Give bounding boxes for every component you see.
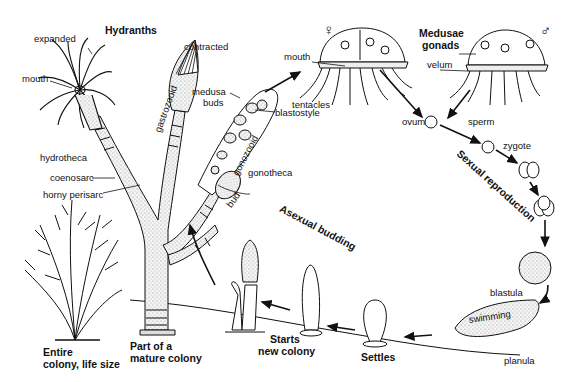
- label-hydranths: Hydranths: [105, 25, 157, 36]
- label-entire-colony-line2: colony, life size: [43, 359, 120, 370]
- label-part-of-colony-line1: Part of a: [130, 341, 172, 352]
- female-medusa-illustration: [300, 28, 412, 105]
- label-ovum: ovum: [402, 116, 425, 127]
- label-medusae: Medusae: [419, 28, 464, 39]
- label-entire-colony-line1: Entire: [43, 347, 73, 358]
- label-sperm: sperm: [468, 116, 494, 127]
- label-contracted: contracted: [184, 41, 228, 52]
- female-symbol: ♀: [323, 22, 334, 37]
- label-gonotheca: gonotheca: [248, 167, 292, 178]
- label-expanded: expanded: [34, 33, 76, 44]
- label-planula: planula: [504, 355, 535, 366]
- expanded-hydranth-illustration: [38, 38, 115, 130]
- label-horny-perisarc: horny perisarc: [43, 189, 103, 200]
- development-stages-illustration: [425, 116, 554, 337]
- obelia-life-cycle-diagram: Hydranths expanded contracted mouth hydr…: [0, 0, 572, 382]
- label-hydrotheca: hydrotheca: [40, 152, 87, 163]
- label-starts-new-colony-line1: Starts: [270, 334, 300, 345]
- label-blastula: blastula: [490, 287, 523, 298]
- male-medusa-illustration: [450, 30, 548, 105]
- label-coenosarc: coenosarc: [50, 172, 94, 183]
- settling-polyps-illustration: [225, 240, 387, 347]
- entire-colony-illustration: [25, 200, 122, 340]
- label-mouth-polyp: mouth: [22, 73, 48, 84]
- label-gonads: gonads: [422, 40, 459, 51]
- label-medusa-buds-line2: buds: [203, 97, 224, 108]
- label-starts-new-colony-line2: new colony: [258, 346, 315, 357]
- label-zygote: zygote: [503, 140, 531, 151]
- mature-colony-illustration: [90, 110, 222, 335]
- label-part-of-colony-line2: mature colony: [130, 353, 202, 364]
- label-velum: velum: [427, 59, 452, 70]
- male-symbol: ♂: [540, 23, 551, 38]
- label-tentacles: tentacles: [292, 99, 330, 110]
- label-mouth-medusa: mouth: [284, 51, 310, 62]
- label-medusa-buds-line1: medusa: [192, 86, 226, 97]
- label-settles: Settles: [361, 352, 395, 363]
